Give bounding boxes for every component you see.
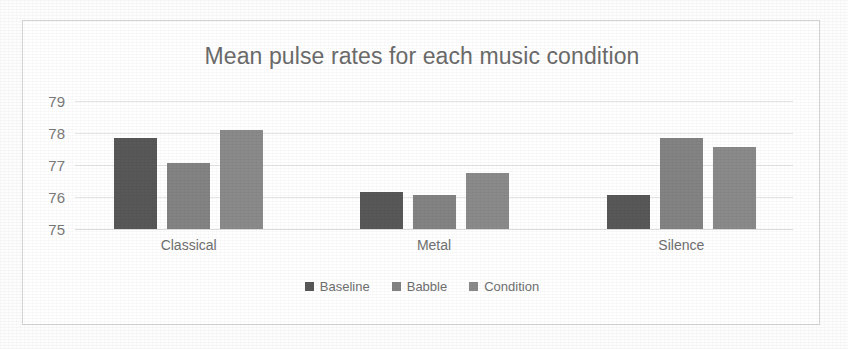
chart-container: Mean pulse rates for each music conditio… — [22, 20, 820, 325]
y-axis-tick-label: 78 — [48, 125, 65, 142]
bar-classical-condition — [220, 130, 263, 229]
y-axis-tick-label: 76 — [48, 189, 65, 206]
y-axis-tick-label: 75 — [48, 221, 65, 238]
y-axis-tick-label: 79 — [48, 93, 65, 110]
bar-classical-baseline — [114, 138, 157, 229]
gridline-75 — [75, 229, 793, 230]
bar-silence-condition — [713, 147, 756, 229]
gridline-79 — [75, 101, 793, 102]
legend-label: Baseline — [320, 279, 370, 294]
legend-item-baseline: Baseline — [305, 279, 370, 294]
plot-area: 7978777675ClassicalMetalSilence — [75, 101, 793, 229]
legend-item-babble: Babble — [392, 279, 447, 294]
legend-item-condition: Condition — [469, 279, 539, 294]
legend-swatch-icon-baseline — [305, 282, 314, 291]
legend-label: Condition — [484, 279, 539, 294]
legend-swatch-icon-babble — [392, 282, 401, 291]
bar-metal-baseline — [360, 192, 403, 229]
gridline-78 — [75, 133, 793, 134]
bar-silence-babble — [660, 138, 703, 229]
x-axis-category-label-classical: Classical — [161, 237, 217, 253]
bar-metal-babble — [413, 195, 456, 229]
bar-silence-baseline — [607, 195, 650, 229]
legend-swatch-icon-condition — [469, 282, 478, 291]
bar-metal-condition — [466, 173, 509, 229]
x-axis-category-label-metal: Metal — [417, 237, 451, 253]
chart-title: Mean pulse rates for each music conditio… — [23, 43, 821, 70]
chart-legend: BaselineBabbleCondition — [23, 279, 821, 294]
legend-label: Babble — [407, 279, 447, 294]
bar-classical-babble — [167, 163, 210, 229]
y-axis-tick-label: 77 — [48, 157, 65, 174]
x-axis-category-label-silence: Silence — [658, 237, 704, 253]
